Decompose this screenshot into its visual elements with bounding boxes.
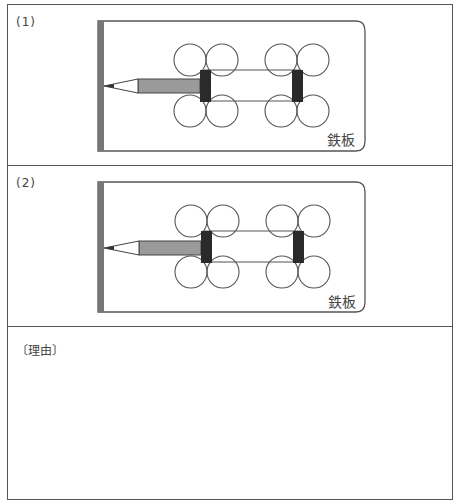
cart-diagram-2: 鉄板 xyxy=(8,166,454,327)
worksheet: (1) xyxy=(7,4,453,500)
magnet-block-left xyxy=(200,70,211,102)
wall-bar xyxy=(98,21,104,151)
reason-answer-area[interactable] xyxy=(16,361,444,491)
magnet-block-right xyxy=(292,70,303,102)
pencil xyxy=(104,79,200,93)
wall-bar xyxy=(98,182,104,312)
plate-label-1: 鉄板 xyxy=(327,132,355,148)
panel-1: (1) xyxy=(8,5,452,166)
reason-label: 〔理由〕 xyxy=(16,341,64,358)
pencil xyxy=(104,241,201,255)
panel-2: (2) 鉄板 xyxy=(8,166,452,327)
reason-panel[interactable]: 〔理由〕 xyxy=(8,327,452,499)
magnet-block-right xyxy=(293,231,304,263)
magnet-block-left xyxy=(201,231,212,263)
cart-diagram-1: 鉄板 xyxy=(8,5,454,166)
plate-label-2: 鉄板 xyxy=(328,294,356,310)
